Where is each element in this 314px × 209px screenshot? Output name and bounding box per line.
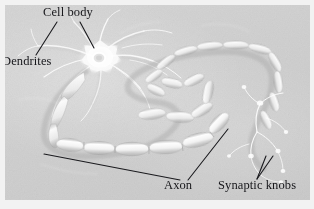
label-synaptic-knobs: Synaptic knobs: [218, 179, 296, 192]
plate-edge-bottom: [0, 200, 314, 209]
neuron-figure: Cell body Dendrites Axon Synaptic knobs: [0, 0, 314, 209]
leader-axon-bracket: [44, 154, 180, 180]
leader-lines: [4, 4, 310, 200]
label-axon: Axon: [164, 179, 192, 192]
label-dendrites: Dendrites: [2, 55, 52, 68]
plate-edge-right: [310, 0, 314, 209]
leader-cell-body: [80, 22, 94, 48]
leader-dendrites: [36, 22, 57, 55]
leader-axon-arm: [188, 129, 228, 180]
label-cell-body: Cell body: [43, 6, 93, 19]
micrograph-plate: [4, 4, 310, 200]
